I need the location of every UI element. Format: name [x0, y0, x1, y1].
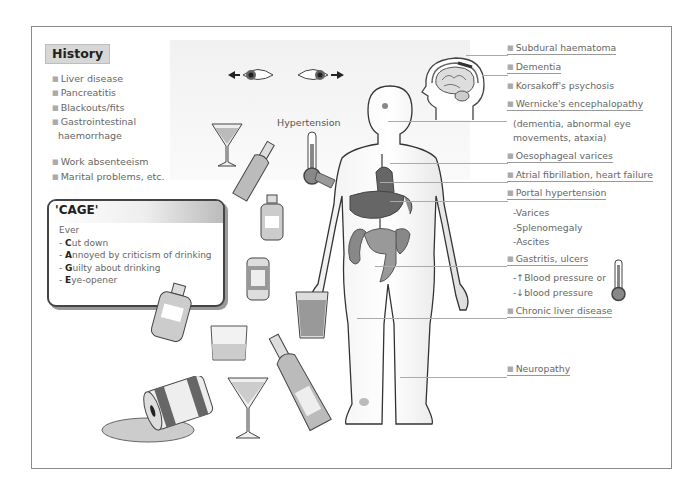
cage-line: - Annoyed by criticism of drinking	[59, 249, 223, 262]
label-neuropathy: ■Neuropathy	[507, 363, 570, 376]
thermometer-icon	[609, 259, 629, 303]
label-oesophageal: ■Oesophageal varices	[507, 150, 613, 163]
history-item: ■Pancreatitis	[52, 86, 165, 100]
history-item: ■Gastrointestinal	[52, 115, 165, 129]
history-item: ■Work absenteeism	[52, 155, 165, 169]
hypertension-label: Hypertension	[277, 117, 341, 128]
label-gastritis: ■Gastritis, ulcers	[507, 253, 588, 266]
tumbler-glass-icon	[209, 322, 249, 364]
cage-title: 'CAGE'	[49, 201, 223, 223]
history-item: haemorrhage	[52, 129, 165, 143]
flask-bottle-icon	[148, 282, 198, 346]
leader-line	[388, 121, 507, 122]
cocktail-glass-icon	[226, 376, 270, 442]
leader-line	[357, 318, 507, 319]
label-wernicke-detail: (dementia, abnormal eyemovements, ataxia…	[513, 117, 631, 144]
label-portal-sub: -Varices-Splenomegaly-Ascites	[513, 206, 583, 250]
beer-can-icon	[244, 254, 272, 304]
label-korsakoff: ■Korsakoff's psychosis	[507, 80, 614, 91]
thermometer-icon	[303, 130, 339, 190]
cage-line: - Cut down	[59, 237, 223, 250]
leader-line	[390, 163, 508, 164]
flask-bottle-icon	[258, 194, 288, 244]
label-subdural: ■Subdural haematoma	[507, 42, 616, 55]
label-blood-pressure: -↑Blood pressure or-↓blood pressure	[513, 270, 606, 300]
leader-line	[466, 55, 508, 56]
cage-intro: Ever	[59, 224, 223, 237]
history-item: ■Liver disease	[52, 72, 165, 86]
cage-line: - Eye-opener	[59, 274, 223, 287]
history-title: History	[45, 44, 110, 64]
history-list: ■Liver disease ■Pancreatitis ■Blackouts/…	[52, 72, 165, 184]
history-item: ■Blackouts/fits	[52, 101, 165, 115]
leader-line	[375, 266, 507, 267]
history-item: ■Marital problems, etc.	[52, 170, 165, 184]
label-portal: ■Portal hypertension	[507, 187, 606, 200]
leader-line	[400, 377, 507, 378]
label-chronic-liver: ■Chronic liver disease	[507, 305, 612, 318]
label-dementia: ■Dementia	[507, 61, 561, 74]
cage-line: - Guilty about drinking	[59, 262, 223, 275]
label-wernicke: ■Wernicke's encephalopathy	[507, 98, 643, 111]
leader-line	[380, 182, 508, 183]
cage-box: 'CAGE' Ever - Cut down - Annoyed by crit…	[47, 199, 225, 307]
spilled-can-icon	[98, 376, 218, 446]
leader-line	[482, 75, 508, 76]
wine-bottle-icon	[264, 330, 334, 435]
label-atrial: ■Atrial fibrillation, heart failure	[507, 169, 653, 182]
leader-line	[390, 201, 508, 202]
